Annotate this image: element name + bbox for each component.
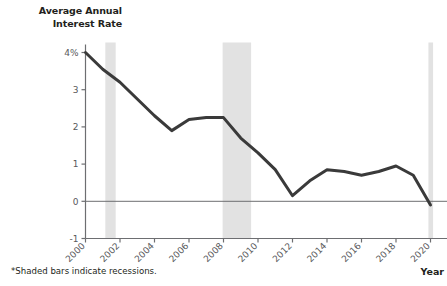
- x-tick-label: 2020: [409, 241, 432, 264]
- chart-plot-area: 4%3210-1 2000200220042006200820102012201…: [0, 0, 447, 286]
- x-tick-label: 2006: [167, 241, 190, 264]
- x-axis: [86, 239, 447, 243]
- y-tick-label: 0: [73, 197, 79, 207]
- data-line: [86, 53, 431, 206]
- x-tick-label: 2014: [305, 241, 328, 264]
- y-axis: [82, 45, 86, 239]
- y-axis-tick-labels: 4%3210-1: [64, 48, 79, 244]
- x-tick-label: 2002: [98, 241, 121, 264]
- interest-rate-chart: Average Annual Interest Rate 4%3210-1 20…: [0, 0, 447, 286]
- interest-rate-line-series: [86, 53, 431, 206]
- y-tick-label: 4%: [64, 48, 79, 58]
- y-tick-label: 3: [73, 85, 79, 95]
- x-tick-label: 2012: [271, 241, 294, 264]
- x-tick-label: 2010: [236, 241, 259, 264]
- y-tick-label: 1: [73, 159, 79, 169]
- x-tick-label: 2000: [64, 241, 87, 264]
- shaded-recession-bars: [105, 43, 433, 239]
- x-tick-label: 2016: [340, 241, 363, 264]
- x-axis-title: Year: [396, 266, 444, 277]
- x-tick-label: 2018: [374, 241, 397, 264]
- chart-footnote: *Shaded bars indicate recessions.: [11, 266, 157, 276]
- y-tick-label: 2: [73, 122, 79, 132]
- shaded-region-recession-2008: [223, 43, 251, 239]
- x-tick-label: 2004: [133, 241, 156, 264]
- x-axis-tick-labels: 2000200220042006200820102012201420162018…: [64, 241, 432, 264]
- shaded-region-recession-2020: [428, 43, 433, 239]
- x-tick-label: 2008: [202, 241, 225, 264]
